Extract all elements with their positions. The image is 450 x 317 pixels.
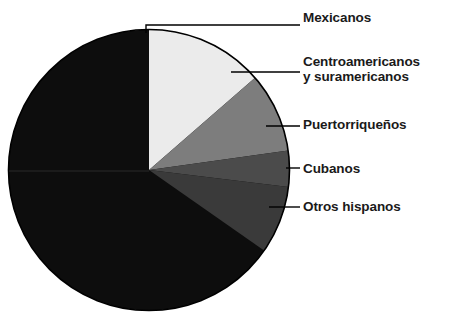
legend-label-otros-hispanos[interactable]: Otros hispanos [303,199,401,214]
pie-chart: Mexicanos Centroamericanos y suramerican… [0,0,450,317]
legend-label-mexicanos[interactable]: Mexicanos [303,10,371,25]
legend-label-puertorriquenos[interactable]: Puertorriqueños [303,117,407,132]
legend-label-centroamericanos-y-suramericanos[interactable]: Centroamericanos y suramericanos [303,54,420,84]
legend-label-cubanos[interactable]: Cubanos [303,161,360,176]
pie-chart-canvas [0,0,450,317]
